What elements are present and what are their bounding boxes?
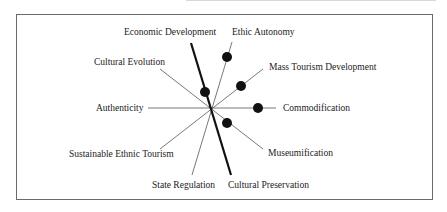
point-ethic-autonomy — [222, 52, 232, 62]
label-cultural-evolution: Cultural Evolution — [94, 57, 165, 68]
point-mass-tourism-development — [236, 81, 246, 91]
label-state-regulation: State Regulation — [152, 180, 215, 191]
label-museumification: Museumification — [268, 148, 333, 159]
point-commodification — [253, 103, 263, 113]
point-economic-development — [200, 87, 210, 97]
axis-economic-development-cultural-preservation — [191, 43, 231, 175]
label-economic-development: Economic Development — [124, 27, 216, 38]
label-cultural-preservation: Cultural Preservation — [228, 180, 309, 191]
label-ethic-autonomy: Ethic Autonomy — [232, 27, 295, 38]
axis-diagram — [0, 0, 447, 212]
label-sustainable-ethnic-tourism: Sustainable Ethnic Tourism — [69, 149, 174, 160]
point-museumification — [222, 118, 232, 128]
label-authenticity: Authenticity — [96, 103, 144, 114]
label-mass-tourism-development: Mass Tourism Development — [269, 62, 376, 73]
label-commodification: Commodification — [283, 103, 350, 114]
